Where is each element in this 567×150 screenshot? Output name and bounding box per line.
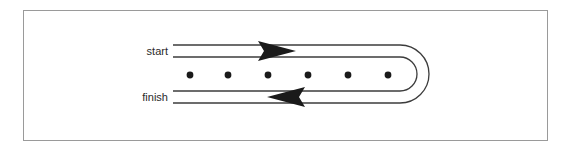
waypoint-dot <box>187 72 194 79</box>
inner-track-path <box>173 57 417 91</box>
finish-label: finish <box>142 91 168 103</box>
waypoint-dot-group <box>187 72 392 79</box>
finish-direction-arrow-icon <box>267 87 305 107</box>
waypoint-dot <box>225 72 232 79</box>
waypoint-dot <box>265 72 272 79</box>
waypoint-dot <box>385 72 392 79</box>
figure-border <box>24 11 548 141</box>
path-diagram-svg: start finish <box>0 0 567 150</box>
figure-container: start finish <box>0 0 567 150</box>
waypoint-dot <box>305 72 312 79</box>
start-label: start <box>147 45 168 57</box>
waypoint-dot <box>345 72 352 79</box>
start-direction-arrow-icon <box>258 41 296 61</box>
